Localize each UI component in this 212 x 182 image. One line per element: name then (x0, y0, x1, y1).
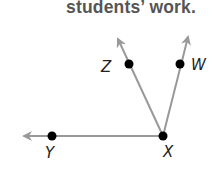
label-x: X (162, 143, 174, 161)
point-z (125, 60, 134, 69)
point-w (176, 60, 185, 69)
point-x (159, 132, 168, 141)
label-z: Z (100, 58, 112, 76)
label-y: Y (45, 144, 56, 162)
geometry-diagram: Z W Y X (0, 0, 212, 182)
point-y (48, 132, 57, 141)
ray-xz (118, 39, 163, 136)
label-w: W (191, 56, 207, 74)
ray-xw (163, 37, 188, 136)
